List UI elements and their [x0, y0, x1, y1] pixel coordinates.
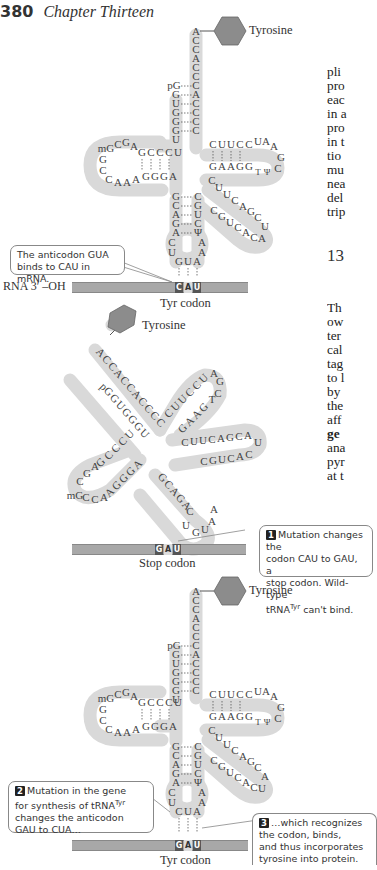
svg-text:A: A [130, 690, 138, 702]
svg-text:C: C [234, 221, 241, 233]
codon-base: G [155, 544, 163, 555]
tyrosine-hexagon [214, 577, 246, 605]
svg-text:C: C [209, 138, 216, 150]
codon-base: U [193, 282, 201, 293]
svg-text:U: U [199, 434, 207, 446]
svg-text:U: U [190, 435, 198, 447]
svg-text:G: G [142, 170, 150, 182]
svg-text:G: G [122, 686, 130, 698]
svg-text:C: C [250, 231, 257, 243]
svg-text:C: C [274, 162, 281, 174]
svg-text:G: G [160, 170, 168, 182]
callout-text: …which recognizes [271, 817, 362, 828]
svg-text:A: A [258, 232, 266, 244]
svg-text:C: C [114, 138, 121, 150]
svg-text:U: U [226, 766, 234, 778]
svg-text:G: G [192, 526, 200, 538]
svg-text:G: G [160, 720, 168, 732]
svg-text:G: G [138, 146, 146, 158]
codon-base: A [184, 282, 192, 293]
svg-text:C: C [231, 194, 238, 206]
callout-mutation-1: 1Mutation changes the codon CAU to GAU, … [259, 525, 373, 577]
svg-text:C: C [274, 712, 281, 724]
svg-text:A: A [242, 776, 250, 788]
svg-text:C: C [105, 173, 112, 185]
svg-text:C: C [156, 146, 163, 158]
svg-text:C: C [245, 448, 252, 460]
codon-stop: G A U [155, 544, 182, 555]
svg-text:A: A [100, 491, 108, 503]
svg-text:A: A [123, 176, 131, 188]
step-number-badge: 2 [15, 786, 25, 796]
svg-text:U: U [182, 519, 190, 531]
svg-text:U: U [254, 135, 262, 147]
svg-text:C: C [227, 452, 234, 464]
amino-acid-label: Tyrosine [142, 318, 186, 333]
svg-text:U: U [215, 731, 223, 743]
svg-text:mG: mG [67, 489, 84, 501]
svg-text:G: G [218, 210, 226, 222]
svg-text:A: A [132, 173, 140, 185]
svg-text:U: U [254, 436, 262, 448]
svg-text:G: G [236, 160, 244, 172]
svg-text:C: C [208, 433, 215, 445]
svg-text:G: G [209, 454, 217, 466]
callout-text: codon CAU to GAU, a [266, 553, 366, 577]
svg-text:C: C [236, 138, 243, 150]
svg-text:C: C [210, 204, 217, 216]
codon-base: U [173, 544, 181, 555]
svg-text:U: U [254, 685, 262, 697]
svg-text:C: C [181, 436, 188, 448]
svg-text:U: U [218, 138, 226, 150]
amino-acid-label: Tyrosine [249, 583, 293, 598]
codon-base: G [175, 840, 183, 851]
svg-text:U: U [223, 738, 231, 750]
callout-anticodon-binding: The anticodon GUA binds to CAU in mRNA. [10, 245, 125, 275]
svg-text:G: G [245, 710, 253, 722]
svg-text:G: G [151, 170, 159, 182]
svg-text:A: A [227, 710, 235, 722]
svg-text:U: U [184, 255, 192, 267]
codon-base: C [175, 282, 183, 293]
svg-text:G: G [122, 136, 130, 148]
svg-text:G: G [151, 720, 159, 732]
svg-text:T: T [255, 167, 261, 177]
svg-text:U: U [172, 133, 180, 145]
svg-text:C: C [192, 684, 199, 696]
svg-text:C: C [82, 491, 89, 503]
svg-text:G: G [218, 760, 226, 772]
callout-text: for synthesis of tRNA [15, 800, 115, 811]
step-number-badge: 3 [259, 818, 269, 828]
svg-text:Ψ: Ψ [264, 717, 271, 727]
callout-text: Mutation in the gene [27, 785, 126, 796]
svg-text:C: C [186, 505, 193, 517]
svg-text:A: A [242, 226, 250, 238]
svg-text:U: U [215, 181, 223, 193]
svg-text:U: U [261, 220, 269, 232]
svg-text:T: T [255, 717, 261, 727]
callout-text: Mutation changes the [266, 529, 363, 552]
svg-text:C: C [209, 688, 216, 700]
svg-text:C: C [105, 723, 112, 735]
svg-text:U: U [218, 688, 226, 700]
svg-text:U: U [174, 146, 182, 158]
svg-text:A: A [208, 515, 216, 527]
svg-text:A: A [123, 726, 131, 738]
svg-text:Ψ: Ψ [264, 167, 271, 177]
svg-text:A: A [217, 432, 225, 444]
svg-text:A: A [130, 140, 138, 152]
svg-text:A: A [193, 805, 201, 817]
svg-text:C: C [235, 430, 242, 442]
svg-text:U: U [226, 216, 234, 228]
svg-text:A: A [239, 750, 247, 762]
svg-text:A: A [210, 503, 218, 515]
svg-text:G: G [83, 467, 91, 479]
svg-text:C: C [236, 688, 243, 700]
codon-base: U [193, 840, 201, 851]
svg-text:C: C [250, 781, 257, 793]
svg-text:G: G [209, 160, 217, 172]
svg-text:C: C [214, 387, 221, 399]
codon-base: A [164, 544, 172, 555]
svg-text:A: A [193, 255, 201, 267]
codon-tyr: C A U [175, 282, 202, 293]
